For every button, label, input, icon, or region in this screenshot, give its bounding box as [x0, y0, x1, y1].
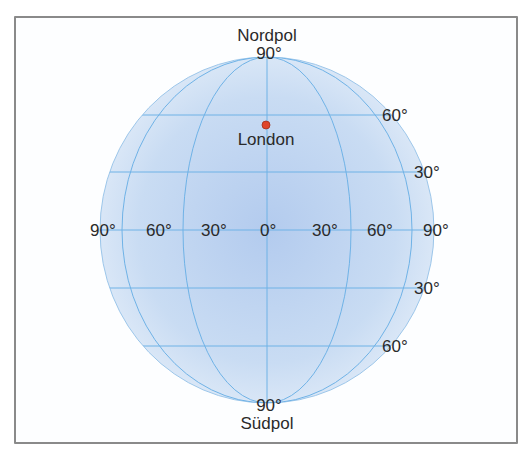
- latitude-label-30s: 30°: [414, 280, 440, 297]
- longitude-label-30e: 30°: [312, 222, 338, 239]
- london-marker: [262, 121, 270, 129]
- latitude-label-60n: 60°: [382, 107, 408, 124]
- latitude-label-30n: 30°: [414, 164, 440, 181]
- london-label: London: [238, 131, 295, 148]
- latitude-label-90n: 90°: [256, 45, 282, 62]
- latitude-label-90s: 90°: [256, 397, 282, 414]
- longitude-label-60e: 60°: [367, 222, 393, 239]
- south-pole-label: Südpol: [241, 415, 294, 432]
- latitude-label-60s: 60°: [382, 338, 408, 355]
- north-pole-label: Nordpol: [237, 27, 297, 44]
- longitude-label-60w: 60°: [146, 222, 172, 239]
- longitude-label-90e: 90°: [423, 222, 449, 239]
- longitude-label-90w: 90°: [90, 222, 116, 239]
- longitude-label-30w: 30°: [201, 222, 227, 239]
- longitude-label-0: 0°: [260, 222, 276, 239]
